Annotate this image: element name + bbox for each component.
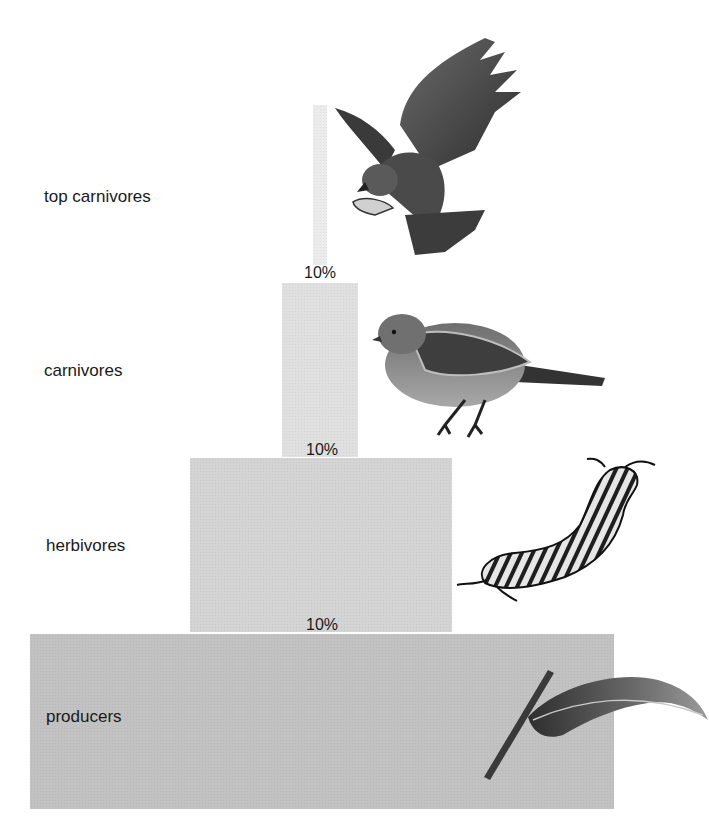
carnivores-bar	[282, 283, 358, 457]
top-carnivores-bar	[313, 105, 327, 265]
leaf-icon	[478, 645, 709, 785]
herbivores-bar	[190, 458, 452, 632]
transfer-percent-herb-to-carn: 10%	[292, 441, 352, 459]
level-label-producers: producers	[46, 707, 122, 727]
hawk-icon	[335, 30, 525, 260]
level-label-herbivores: herbivores	[46, 536, 125, 556]
transfer-percent-prod-to-herb: 10%	[292, 616, 352, 634]
level-label-carnivores: carnivores	[44, 361, 122, 381]
level-label-top-carnivores: top carnivores	[44, 187, 151, 207]
caterpillar-icon	[455, 455, 665, 605]
transfer-percent-carn-to-top: 10%	[290, 264, 350, 282]
sparrow-icon	[370, 300, 610, 440]
